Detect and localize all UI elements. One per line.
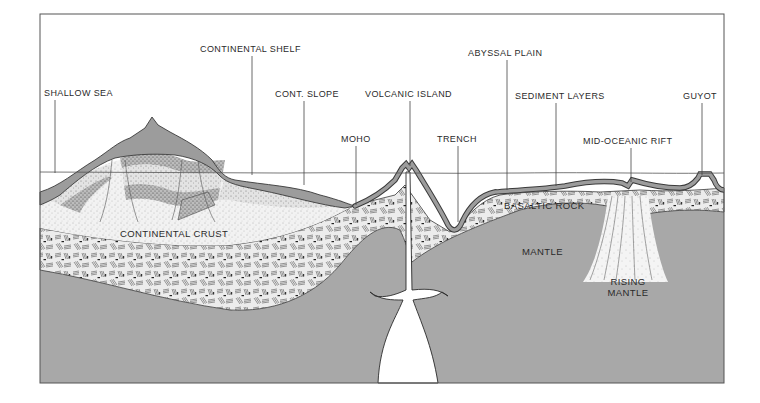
- label-trench: TRENCH: [437, 134, 477, 144]
- rising-mantle-line1: RISING: [606, 276, 650, 287]
- label-cont-slope: CONT. SLOPE: [275, 89, 339, 99]
- rising-mantle-line2: MANTLE: [606, 287, 650, 298]
- region-label-mantle: MANTLE: [522, 246, 563, 257]
- region-label-basaltic-rock: BASALTIC ROCK: [504, 200, 585, 211]
- region-label-continental-crust: CONTINENTAL CRUST: [120, 228, 228, 239]
- label-continental-shelf: CONTINENTAL SHELF: [200, 44, 301, 54]
- label-sediment-layers: SEDIMENT LAYERS: [515, 91, 605, 101]
- label-mid-oceanic-rift: MID-OCEANIC RIFT: [583, 136, 672, 146]
- label-guyot: GUYOT: [683, 91, 717, 101]
- label-shallow-sea: SHALLOW SEA: [44, 88, 113, 98]
- label-moho: MOHO: [341, 134, 371, 144]
- label-abyssal-plain: ABYSSAL PLAIN: [468, 48, 542, 58]
- geology-cross-section-diagram: [0, 0, 760, 403]
- label-volcanic-island: VOLCANIC ISLAND: [365, 89, 452, 99]
- region-label-rising-mantle: RISING MANTLE: [606, 276, 650, 298]
